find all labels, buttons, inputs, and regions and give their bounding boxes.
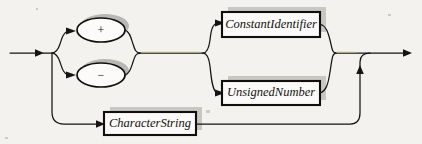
railroad-diagram-canvas: + − Consta [0,0,422,144]
unsigned-number-label: UnsignedNumber [227,85,315,99]
minus-oval-label: − [98,68,105,82]
sign-option-plus[interactable]: + [77,14,129,42]
terminal-constant-identifier[interactable]: ConstantIdentifier [222,7,326,37]
terminal-character-string[interactable]: CharacterString [104,107,202,135]
sign-option-minus[interactable]: − [77,59,129,87]
constant-identifier-label: ConstantIdentifier [225,17,317,31]
character-string-label: CharacterString [109,116,191,130]
mainline-rail [139,52,203,53]
terminal-unsigned-number[interactable]: UnsignedNumber [222,76,326,105]
exit-rail [335,49,412,57]
railroad-diagram-svg: + − Consta [0,0,422,144]
entry-rail [10,49,52,57]
plus-oval-label: + [98,23,105,37]
